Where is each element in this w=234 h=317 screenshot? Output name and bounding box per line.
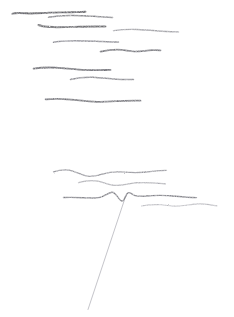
- sketch-canvas: [0, 0, 234, 317]
- paper-background: [0, 0, 234, 317]
- sketch-svg: [0, 0, 234, 317]
